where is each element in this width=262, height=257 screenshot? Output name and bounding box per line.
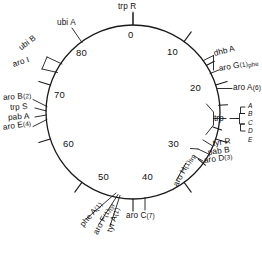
gene-label-aroC: aro C(7)	[126, 212, 155, 220]
leader-ubiB	[47, 57, 62, 64]
trp-operon-bracket	[230, 107, 245, 131]
leader-trp-stem	[206, 104, 214, 135]
circular-genetic-map: 0 10 20 30 40 50 60 70 80 trp R dhb A ar…	[0, 0, 262, 257]
leader-aroI	[42, 69, 58, 73]
tick-40	[184, 182, 191, 192]
leader-tyrR-cluster-stem	[191, 149, 199, 150]
leader-aroI-ubiB-join	[42, 57, 47, 69]
gene-label-pabA: pab A	[8, 113, 30, 123]
gene-count-aroD: (3)	[224, 153, 233, 161]
leader-pabA	[35, 115, 47, 117]
leader-trpS	[35, 108, 47, 111]
gene-count-aroB: (2)	[23, 92, 32, 100]
gene-label-aroA: aro A(6)	[233, 84, 261, 92]
trp-bracket-letter-B: B	[248, 111, 252, 118]
trp-bracket-letter-A: A	[248, 103, 252, 110]
leader-ubiA	[72, 28, 82, 43]
trp-bracket-letter-D: D	[248, 128, 253, 135]
gene-label-trpS: trp S	[10, 103, 28, 112]
tick-minor-b	[219, 105, 228, 106]
tick-10	[184, 32, 191, 42]
scale-label-40: 40	[142, 172, 153, 182]
chromosome-circle	[46, 25, 220, 199]
leader-aroE	[33, 120, 47, 127]
leader-aroB	[33, 100, 47, 107]
gene-count-aroC: (7)	[147, 212, 155, 219]
scale-label-80: 80	[76, 48, 87, 58]
gene-label-trpR: trp R	[118, 3, 136, 11]
scale-label-10: 10	[167, 47, 178, 57]
tick-20	[216, 81, 227, 85]
gene-count-aroA: (6)	[253, 84, 261, 91]
trp-bracket-shape	[236, 114, 245, 125]
scale-tick-marks	[39, 13, 228, 211]
scale-label-30: 30	[168, 139, 179, 149]
leader-pabB	[198, 149, 208, 154]
trp-bracket-upper	[241, 107, 246, 114]
scale-label-70: 70	[54, 90, 65, 100]
tick-80	[39, 81, 50, 85]
trp-bracket-letter-E: E	[248, 137, 252, 144]
tick-60	[75, 182, 82, 192]
leader-tyrR	[203, 140, 212, 146]
scale-label-60: 60	[63, 139, 74, 149]
trp-bracket-letter-C: C	[248, 120, 253, 127]
leader-dhbA	[204, 56, 214, 61]
tick-70	[39, 139, 50, 143]
leader-aroG	[210, 70, 219, 74]
scale-label-0: 0	[128, 30, 133, 40]
scale-label-20: 20	[190, 83, 201, 93]
trp-bracket-lower	[241, 124, 246, 131]
gene-label-trp: trp	[214, 114, 224, 122]
scale-label-50: 50	[98, 172, 109, 182]
tick-minor-c	[213, 127, 222, 130]
gene-leader-lines	[33, 12, 232, 226]
gene-label-ubiA: ubi A	[57, 19, 76, 27]
